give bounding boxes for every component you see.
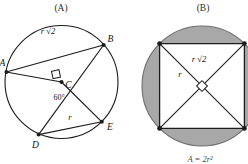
panel-a-vertex-b bbox=[102, 43, 106, 47]
panel-a-vertex-e bbox=[100, 120, 104, 124]
panel-b-measure-rsqrt2: r √2 bbox=[192, 54, 207, 64]
svg-text:r √2: r √2 bbox=[41, 26, 56, 36]
geometry-figure: (A) A B C D E r bbox=[0, 0, 248, 164]
panel-a-vertex-a bbox=[5, 70, 9, 74]
panel-b-vertex-bottom-right bbox=[242, 126, 247, 131]
panel-b-title: (B) bbox=[197, 3, 210, 14]
caption-formula: A = 2r² bbox=[186, 154, 213, 164]
panel-a-label-c: C bbox=[65, 80, 72, 90]
panel-b-vertex-top-right bbox=[242, 41, 247, 46]
panel-a-angle-60: 60° bbox=[53, 93, 64, 102]
panel-b-vertex-top-left bbox=[157, 41, 162, 46]
panel-a-vertex-c bbox=[59, 80, 63, 84]
panel-a-label-e: E bbox=[106, 122, 113, 132]
panel-a-label-a: A bbox=[0, 58, 6, 68]
panel-a-measure-rsqrt2: r √2 bbox=[41, 26, 56, 36]
panel-a-right-angle-marker bbox=[51, 70, 60, 79]
panel-a-label-b: B bbox=[108, 34, 114, 44]
panel-a-vertex-d bbox=[37, 133, 41, 137]
panel-a-label-d: D bbox=[31, 140, 39, 150]
panel-b-vertex-bottom-left bbox=[157, 126, 162, 131]
panel-a-title: (A) bbox=[54, 3, 67, 14]
